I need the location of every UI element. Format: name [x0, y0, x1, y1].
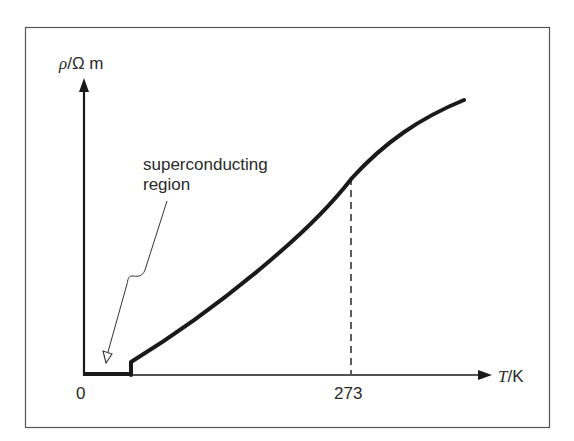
annotation-leader-line — [108, 201, 167, 352]
origin-tick-label: 0 — [76, 384, 85, 403]
x-axis-label: T/K — [498, 367, 524, 386]
annotation-arrowhead-icon — [103, 351, 112, 363]
chart-frame — [26, 28, 550, 428]
x-axis-arrow-icon — [478, 370, 492, 380]
annotation-text-line1: superconducting — [143, 155, 268, 174]
tick-label-273: 273 — [334, 384, 362, 403]
resistivity-temperature-chart: ρ/Ω m T/K 0 273 superconducting region — [0, 0, 574, 441]
y-axis-arrow-icon — [79, 78, 89, 92]
annotation-text-line2: region — [143, 175, 190, 194]
resistivity-curve — [131, 100, 464, 375]
y-axis-label: ρ/Ω m — [58, 54, 104, 73]
